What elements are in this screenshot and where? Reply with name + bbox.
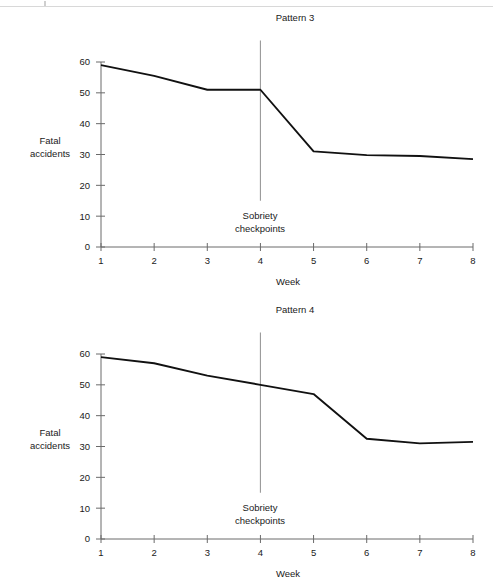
y-tick-label: 0 (85, 241, 90, 252)
x-tick-label: 5 (311, 547, 316, 558)
y-axis-label-line2: accidents (30, 440, 70, 451)
chart-title: Pattern 3 (276, 12, 315, 23)
y-tick-label: 20 (79, 472, 90, 483)
x-tick-label: 1 (98, 255, 103, 266)
x-tick-label: 3 (205, 255, 210, 266)
x-tick-label: 4 (258, 255, 263, 266)
chart-pattern-4: Pattern 4 Fatal accidents Week 010203040… (0, 292, 493, 584)
data-series-group (101, 65, 473, 159)
x-tick-label: 8 (470, 547, 475, 558)
x-axis: 12345678 (98, 243, 475, 266)
x-tick-label: 5 (311, 255, 316, 266)
series-line (101, 65, 473, 159)
y-tick-label: 50 (79, 379, 90, 390)
chart-canvas-pattern-3: Pattern 3 Fatal accidents Week 010203040… (0, 0, 493, 292)
chart-title: Pattern 4 (276, 304, 315, 315)
y-tick-label: 10 (79, 211, 90, 222)
y-tick-label: 30 (79, 149, 90, 160)
x-tick-label: 7 (417, 255, 422, 266)
annotation-label-line2: checkpoints (235, 223, 285, 234)
y-axis-label-line1: Fatal (39, 427, 60, 438)
y-tick-label: 60 (79, 56, 90, 67)
y-tick-label: 50 (79, 87, 90, 98)
x-tick-label: 4 (258, 547, 263, 558)
y-axis: 0102030405060 (79, 348, 105, 544)
x-tick-label: 7 (417, 547, 422, 558)
chart-pattern-3: Pattern 3 Fatal accidents Week 010203040… (0, 0, 493, 292)
y-axis-label-line1: Fatal (39, 135, 60, 146)
x-axis-label: Week (276, 276, 300, 287)
chart-canvas-pattern-4: Pattern 4 Fatal accidents Week 010203040… (0, 292, 493, 585)
y-tick-label: 20 (79, 180, 90, 191)
annotation-label-line1: Sobriety (243, 502, 278, 513)
y-tick-label: 30 (79, 441, 90, 452)
annotation-label-line2: checkpoints (235, 515, 285, 526)
y-axis-label-line2: accidents (30, 148, 70, 159)
data-series-group (101, 357, 473, 443)
x-tick-label: 2 (151, 547, 156, 558)
x-tick-label: 8 (470, 255, 475, 266)
x-tick-label: 3 (205, 547, 210, 558)
y-tick-label: 10 (79, 503, 90, 514)
x-axis-label: Week (276, 568, 300, 579)
y-tick-label: 40 (79, 118, 90, 129)
series-line (101, 357, 473, 443)
y-tick-label: 40 (79, 410, 90, 421)
y-tick-label: 60 (79, 348, 90, 359)
x-tick-label: 1 (98, 547, 103, 558)
x-axis: 12345678 (98, 535, 475, 558)
figure-page: Pattern 3 Fatal accidents Week 010203040… (0, 0, 493, 585)
x-tick-label: 6 (364, 255, 369, 266)
y-axis: 0102030405060 (79, 56, 105, 252)
y-tick-label: 0 (85, 533, 90, 544)
x-tick-label: 6 (364, 547, 369, 558)
annotation-label-line1: Sobriety (243, 210, 278, 221)
x-tick-label: 2 (151, 255, 156, 266)
